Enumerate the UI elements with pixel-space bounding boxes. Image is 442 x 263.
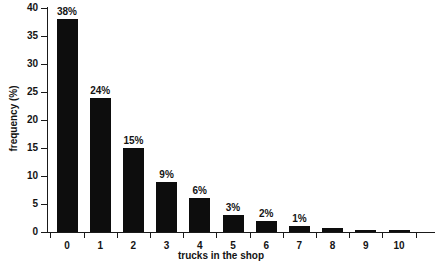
x-tick-mark (283, 233, 284, 238)
y-tick-label: 5 (4, 199, 38, 209)
bar-value-label: 38% (50, 6, 84, 17)
x-tick-mark (416, 233, 417, 238)
x-tick-mark (250, 233, 251, 238)
x-tick-mark (183, 233, 184, 238)
y-tick-mark (41, 148, 48, 149)
bar (322, 228, 343, 232)
bar-value-label: 3% (216, 202, 250, 213)
y-tick-mark (41, 36, 48, 37)
x-tick-mark (50, 233, 51, 238)
bar (189, 198, 210, 232)
bar (256, 221, 277, 232)
bar-value-label: 15% (116, 135, 150, 146)
bar-value-label: 6% (183, 185, 217, 196)
y-tick-mark (41, 176, 48, 177)
bar-value-label: 24% (83, 85, 117, 96)
x-tick-mark (84, 233, 85, 238)
y-tick-label: 40 (4, 3, 38, 13)
bar (57, 19, 78, 232)
y-tick-mark (41, 92, 48, 93)
x-tick-mark (349, 233, 350, 238)
x-tick-mark (117, 233, 118, 238)
x-axis-line (47, 232, 435, 233)
y-axis-title: frequency (%) (8, 59, 19, 179)
y-tick-mark (41, 64, 48, 65)
bar (355, 230, 376, 232)
y-tick-label: 35 (4, 31, 38, 41)
bar (389, 230, 410, 232)
y-tick-mark (41, 204, 48, 205)
bar (223, 215, 244, 232)
x-tick-mark (316, 233, 317, 238)
bar (156, 182, 177, 232)
bar (90, 98, 111, 232)
y-tick-mark (41, 232, 48, 233)
bar-value-label: 9% (150, 169, 184, 180)
x-tick-mark (150, 233, 151, 238)
y-tick-mark (41, 120, 48, 121)
bar (289, 226, 310, 232)
y-tick-mark (41, 8, 48, 9)
bar-value-label: 1% (282, 213, 316, 224)
bar-value-label: 2% (249, 208, 283, 219)
x-axis-title: trucks in the shop (0, 250, 442, 261)
x-tick-mark (382, 233, 383, 238)
bar-chart: 0510152025303540 012345678910 38%24%15%9… (0, 0, 442, 263)
bar (123, 148, 144, 232)
x-tick-mark (216, 233, 217, 238)
y-tick-label: 0 (4, 227, 38, 237)
